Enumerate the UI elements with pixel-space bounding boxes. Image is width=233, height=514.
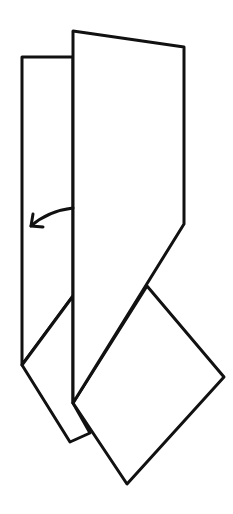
- diagram-canvas: [0, 0, 233, 514]
